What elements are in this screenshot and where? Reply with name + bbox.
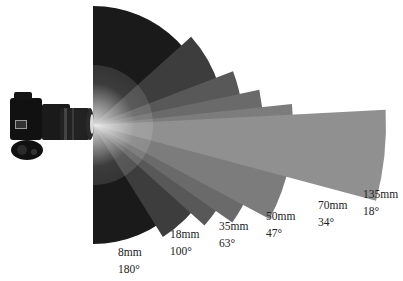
sector-label: 8mm180° xyxy=(118,244,142,278)
sector-label: 35mm63° xyxy=(219,218,248,252)
angle-text: 47° xyxy=(266,225,295,242)
sector-label: 70mm34° xyxy=(318,197,347,231)
angle-text: 63° xyxy=(219,235,248,252)
focal-length-text: 18mm xyxy=(170,226,199,243)
focal-length-text: 50mm xyxy=(266,208,295,225)
angle-text: 34° xyxy=(318,214,347,231)
sector-label: 50mm47° xyxy=(266,208,295,242)
sector-label: 18mm100° xyxy=(170,226,199,260)
focal-length-text: 70mm xyxy=(318,197,347,214)
focal-length-text: 35mm xyxy=(219,218,248,235)
angle-text: 180° xyxy=(118,261,142,278)
focal-length-diagram xyxy=(0,0,403,281)
sector-label: 135mm18° xyxy=(363,186,398,220)
focal-length-text: 8mm xyxy=(118,244,142,261)
focal-length-text: 135mm xyxy=(363,186,398,203)
angle-text: 18° xyxy=(363,203,398,220)
angle-text: 100° xyxy=(170,243,199,260)
